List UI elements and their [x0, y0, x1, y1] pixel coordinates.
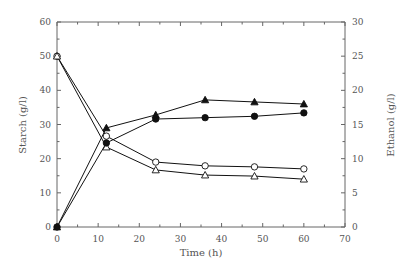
- data-point-circle: [301, 110, 307, 116]
- y-tick-label: 0: [45, 222, 51, 232]
- y-tick-label: 30: [40, 120, 52, 130]
- x-tick-label: 20: [134, 234, 146, 244]
- x-tick-label: 50: [257, 234, 269, 244]
- y-tick-label: 60: [40, 17, 52, 27]
- data-point-circle: [251, 164, 257, 170]
- x-tick-label: 0: [54, 234, 60, 244]
- y2-tick-label: 5: [352, 188, 358, 198]
- x-tick-label: 60: [298, 234, 310, 244]
- y2-tick-label: 30: [352, 17, 364, 27]
- y2-tick-label: 10: [352, 154, 364, 164]
- series-line: [57, 113, 304, 227]
- x-tick-label: 10: [92, 234, 104, 244]
- data-point-circle: [251, 113, 257, 119]
- y-tick-label: 20: [40, 154, 52, 164]
- x-axis-label: Time (h): [180, 247, 223, 258]
- y-tick-label: 10: [40, 188, 52, 198]
- series-line: [57, 56, 304, 179]
- data-point-circle: [202, 114, 208, 120]
- data-point-circle: [202, 163, 208, 169]
- data-lines: [57, 56, 304, 227]
- y-tick-label: 50: [40, 51, 52, 61]
- y2-axis-label: Ethanol (g/l): [385, 93, 396, 156]
- y-tick-label: 40: [40, 85, 52, 95]
- y2-tick-label: 15: [352, 120, 364, 130]
- data-point-triangle: [152, 166, 159, 172]
- data-point-circle: [103, 133, 109, 139]
- chart: 0102030405060700102030405060051015202530…: [0, 0, 402, 272]
- y2-tick-label: 20: [352, 85, 364, 95]
- data-point-circle: [103, 140, 109, 146]
- axes: 0102030405060700102030405060051015202530: [40, 17, 364, 244]
- data-markers: [53, 53, 307, 231]
- y2-tick-label: 0: [352, 222, 358, 232]
- x-tick-label: 30: [175, 234, 187, 244]
- x-tick-label: 40: [216, 234, 228, 244]
- y2-tick-label: 25: [352, 51, 364, 61]
- x-tick-label: 70: [339, 234, 351, 244]
- data-point-circle: [153, 159, 159, 165]
- data-point-circle: [301, 166, 307, 172]
- y-axis-label: Starch (g/l): [17, 96, 28, 154]
